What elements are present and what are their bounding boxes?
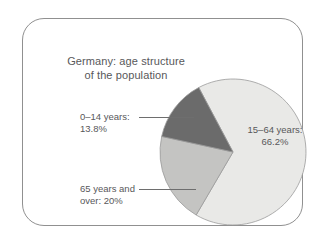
leader-line-old [139, 189, 196, 190]
pie-label-working-age: 15–64 years: 66.2% [237, 124, 313, 148]
pie-label-young-line-2: 13.8% [80, 123, 130, 135]
pie-label-working-age-line-1: 15–64 years: [237, 124, 313, 136]
pie-label-old-line-2: over: 20% [80, 195, 135, 207]
figure-frame: Germany: age structure of the population… [22, 18, 303, 226]
pie-slice-group [160, 79, 306, 225]
leader-line-young [139, 117, 194, 118]
chart-title-line-1: Germany: age structure [56, 55, 196, 69]
pie-label-young: 0–14 years: 13.8% [80, 111, 130, 135]
pie-label-working-age-line-2: 66.2% [237, 136, 313, 148]
pie-label-young-line-1: 0–14 years: [80, 111, 130, 123]
pie-chart-svg [159, 78, 307, 226]
pie-label-old: 65 years and over: 20% [80, 183, 135, 207]
pie-chart [159, 78, 307, 226]
pie-label-old-line-1: 65 years and [80, 183, 135, 195]
